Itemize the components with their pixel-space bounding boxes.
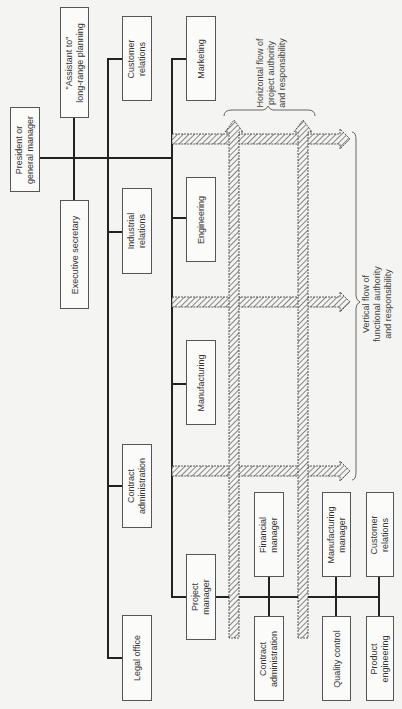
contract-administration-label: Contract administration	[126, 458, 148, 514]
customer-relations-team-box: Customer relations	[366, 492, 394, 577]
horizontal-arrow-1	[172, 129, 350, 149]
manufacturing-label: Manufacturing	[196, 354, 207, 411]
vertical-arrow-2	[294, 120, 312, 638]
engineering-box: Engineering	[186, 177, 216, 262]
project-manager-box: Project manager	[186, 554, 216, 640]
product-engineering-label: Product engineering	[369, 635, 391, 682]
industrial-relations-label: Industrial relations	[126, 213, 148, 250]
financial-manager-box: Financial manager	[254, 492, 284, 577]
legal-office-box: Legal office	[122, 615, 152, 701]
contract-administration-team-label: Contract administration	[258, 630, 280, 686]
project-manager-label: Project manager	[190, 579, 212, 615]
manufacturing-box: Manufacturing	[186, 340, 216, 425]
executive-secretary-label: Executive secretary	[69, 215, 80, 294]
quality-control-box: Quality control	[322, 616, 351, 701]
customer-relations-box: Customer relations	[122, 16, 152, 101]
industrial-relations-box: Industrial relations	[122, 188, 152, 274]
legal-office-label: Legal office	[132, 635, 143, 681]
executive-secretary-box: Executive secretary	[60, 200, 89, 309]
customer-relations-team-label: Customer relations	[369, 515, 391, 554]
vertical-flow-brace	[352, 132, 360, 480]
contract-administration-box: Contract administration	[122, 444, 152, 528]
financial-manager-label: Financial manager	[258, 516, 280, 552]
manufacturing-manager-box: Manufacturing manager	[322, 492, 351, 577]
president-label: President or general manager	[14, 115, 36, 183]
quality-control-label: Quality control	[331, 630, 342, 688]
product-engineering-box: Product engineering	[366, 616, 394, 701]
horizontal-arrow-3	[172, 461, 350, 481]
vertical-flow-note: Vertical flow of functional authority an…	[361, 248, 395, 360]
customer-relations-label: Customer relations	[126, 39, 148, 78]
assistant-label: "Assistant to" long-range planning	[64, 23, 86, 103]
president-box: President or general manager	[10, 107, 40, 192]
marketing-box: Marketing	[186, 16, 216, 101]
horizontal-flow-note: Horizontal flow of project authority and…	[255, 21, 289, 125]
engineering-label: Engineering	[196, 195, 207, 243]
assistant-box: "Assistant to" long-range planning	[60, 7, 89, 118]
manufacturing-manager-label: Manufacturing manager	[326, 506, 348, 563]
vertical-arrow-1	[225, 120, 243, 638]
marketing-label: Marketing	[196, 39, 207, 79]
horizontal-arrow-2	[172, 292, 350, 312]
contract-administration-team-box: Contract administration	[254, 616, 284, 701]
